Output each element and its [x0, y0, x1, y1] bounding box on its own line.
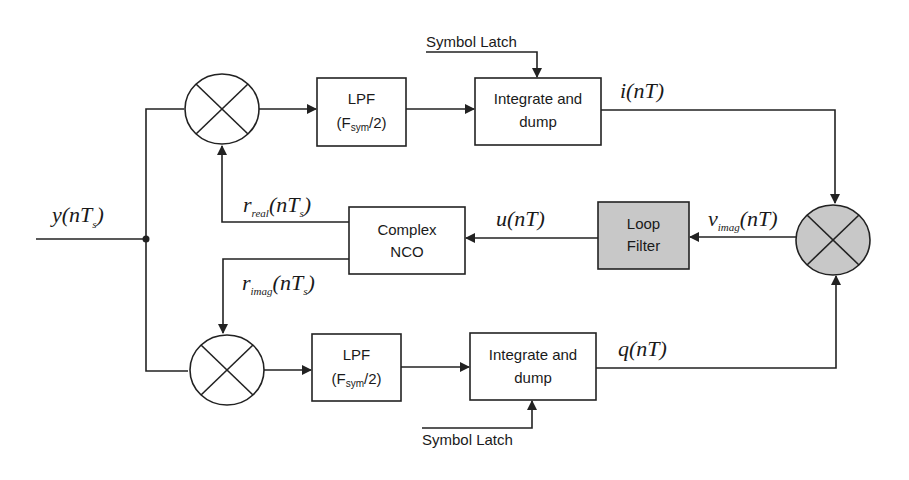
- lpf-top-block: LPF (Fsym/2): [317, 78, 406, 146]
- svg-text:LPF: LPF: [348, 90, 376, 107]
- r-real-label: rreal(nTs): [243, 192, 311, 219]
- svg-text:Symbol Latch: Symbol Latch: [422, 431, 513, 448]
- svg-text:Filter: Filter: [627, 237, 660, 254]
- input-split-wire: [146, 109, 188, 371]
- input-signal: y(nTs): [36, 202, 150, 243]
- svg-text:Integrate and: Integrate and: [489, 346, 577, 363]
- svg-text:dump: dump: [519, 113, 557, 130]
- svg-text:Symbol Latch: Symbol Latch: [426, 33, 517, 50]
- q-signal-label: q(nT): [618, 336, 667, 361]
- carrier-recovery-block-diagram: y(nTs) LPF (Fsym/2) Integrate and dump S…: [0, 0, 909, 480]
- integrate-dump-top-block: Integrate and dump: [475, 78, 601, 145]
- complex-nco-block: Complex NCO: [349, 207, 465, 274]
- integrate-dump-bottom-block: Integrate and dump: [470, 333, 596, 400]
- i-signal-label: i(nT): [620, 78, 664, 103]
- phase-detector-multiplier: [796, 205, 870, 275]
- v-imag-label: vimag(nT): [708, 206, 778, 233]
- multiplier-top: [185, 74, 259, 144]
- svg-text:Loop: Loop: [627, 215, 660, 232]
- loop-filter-block: Loop Filter: [598, 202, 689, 269]
- r-imag-label: rimag(nTs): [242, 270, 315, 297]
- input-label: y(nTs): [50, 202, 104, 230]
- u-signal-label: u(nT): [496, 206, 545, 231]
- symbol-latch-top: Symbol Latch: [426, 33, 537, 77]
- svg-text:Integrate and: Integrate and: [494, 90, 582, 107]
- multiplier-bottom: [190, 335, 264, 405]
- wire-i-to-phase-detector: [601, 110, 835, 203]
- svg-text:NCO: NCO: [390, 243, 423, 260]
- symbol-latch-bottom: Symbol Latch: [422, 401, 532, 448]
- lpf-bottom-block: LPF (Fsym/2): [312, 334, 401, 401]
- svg-text:LPF: LPF: [343, 346, 371, 363]
- svg-text:dump: dump: [514, 369, 552, 386]
- svg-text:Complex: Complex: [377, 221, 437, 238]
